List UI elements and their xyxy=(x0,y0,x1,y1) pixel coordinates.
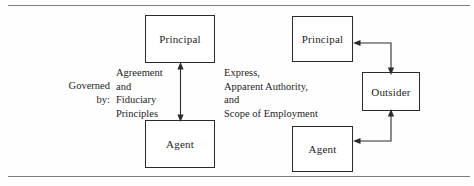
node-outsider: Outsider xyxy=(362,72,420,111)
node-agent-right: Agent xyxy=(292,126,353,172)
node-agent-left: Agent xyxy=(145,120,215,168)
node-principal-right: Principal xyxy=(292,16,353,62)
label-governed-by: Governed by: xyxy=(40,79,110,106)
label-agreement-fiduciary-principles: Agreement and Fiduciary Principles xyxy=(116,66,163,120)
node-principal-right-label: Principal xyxy=(302,33,344,45)
figure-top-rule xyxy=(8,5,470,6)
arrow-principal-agent-bidirectional xyxy=(168,56,194,128)
node-principal-left: Principal xyxy=(145,15,215,63)
node-outsider-label: Outsider xyxy=(371,86,410,98)
node-agent-left-label: Agent xyxy=(166,138,194,150)
node-principal-left-label: Principal xyxy=(159,33,201,45)
agency-relationship-diagram: Principal Agent Principal Agent Outsider… xyxy=(0,0,474,186)
figure-bottom-rule xyxy=(8,176,470,177)
node-agent-right-label: Agent xyxy=(309,143,337,155)
arrow-agent-outsider-bidirectional xyxy=(346,104,398,156)
label-express-apparent-authority: Express, Apparent Authority, and Scope o… xyxy=(224,66,318,120)
